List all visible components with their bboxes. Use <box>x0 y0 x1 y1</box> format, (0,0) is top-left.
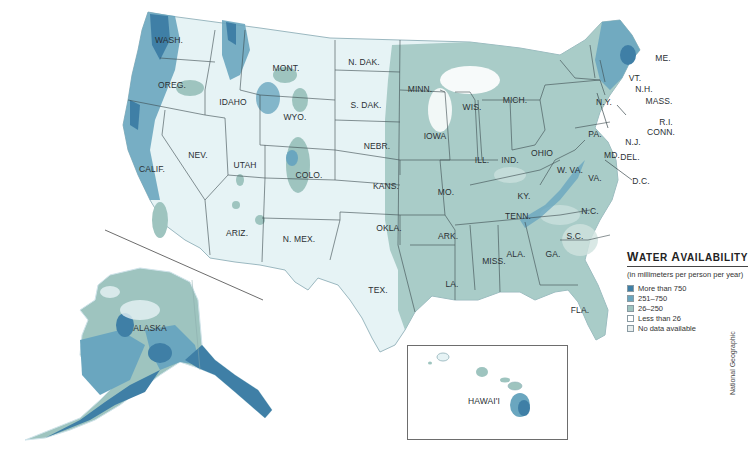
legend: WATER AVAILABILITY (in millimeters per p… <box>627 247 749 334</box>
label-south-carolina: S.C. <box>567 232 584 241</box>
label-alabama: ALA. <box>507 250 526 259</box>
label-michigan: MICH. <box>503 96 528 105</box>
legend-item-label: More than 750 <box>638 284 686 293</box>
label-montana: MONT. <box>273 64 300 73</box>
legend-item-more-than-750: More than 750 <box>627 284 749 294</box>
water-availability-map: WASH. OREG. CALIF. NEV. IDAHO MONT. WYO.… <box>0 0 751 460</box>
legend-item-251-750: 251–750 <box>627 294 749 304</box>
label-pennsylvania: PA. <box>588 130 601 139</box>
label-new-jersey: N.J. <box>625 138 641 147</box>
hawaii-inset-frame <box>407 345 568 440</box>
label-west-virginia: W. VA. <box>557 166 583 175</box>
legend-item-label: Less than 26 <box>638 314 681 323</box>
swatch-less-than-26 <box>627 315 634 322</box>
alaska-shape <box>25 268 272 440</box>
label-washington: WASH. <box>155 36 183 45</box>
label-indiana: IND. <box>501 156 518 165</box>
label-mississippi: MISS. <box>482 257 506 266</box>
label-arkansas: ARK. <box>438 232 458 241</box>
label-new-york: N.Y. <box>596 98 612 107</box>
legend-items: More than 750 251–750 26–250 Less than 2… <box>627 284 749 334</box>
legend-title: WATER AVAILABILITY <box>627 250 748 267</box>
label-virginia: VA. <box>588 174 601 183</box>
swatch-26-250 <box>627 305 634 312</box>
label-illinois: ILL. <box>475 156 490 165</box>
label-florida: FLA. <box>571 306 589 315</box>
label-north-carolina: N.C. <box>581 207 598 216</box>
label-north-dakota: N. DAK. <box>348 58 379 67</box>
legend-subtitle: (in millimeters per person per year) <box>627 271 749 280</box>
label-new-mexico: N. MEX. <box>283 235 315 244</box>
label-dc: D.C. <box>632 177 649 186</box>
label-utah: UTAH <box>234 161 257 170</box>
label-wyoming: WYO. <box>283 113 306 122</box>
label-oklahoma: OKLA. <box>376 224 402 233</box>
label-vermont: VT. <box>629 74 642 83</box>
label-kansas: KANS. <box>373 182 399 191</box>
label-missouri: MO. <box>438 188 454 197</box>
credit-national-geographic: National Geographic <box>729 331 736 395</box>
label-arizona: ARIZ. <box>226 229 248 238</box>
label-rhode-island: R.I. <box>659 118 673 127</box>
label-texas: TEX. <box>368 286 387 295</box>
label-alaska: ALASKA <box>133 324 167 333</box>
label-georgia: GA. <box>546 250 561 259</box>
label-kentucky: KY. <box>518 192 531 201</box>
label-idaho: IDAHO <box>219 98 246 107</box>
label-maine: ME. <box>655 54 670 63</box>
label-south-dakota: S. DAK. <box>351 101 382 110</box>
label-louisiana: LA. <box>445 280 458 289</box>
legend-item-label: No data available <box>638 324 696 333</box>
legend-item-less-than-26: Less than 26 <box>627 314 749 324</box>
label-minnesota: MINN. <box>408 85 433 94</box>
label-wisconsin: WIS. <box>463 103 482 112</box>
label-ohio: OHIO <box>531 149 553 158</box>
label-maryland: MD. <box>604 151 620 160</box>
label-tennessee: TENN. <box>505 212 531 221</box>
label-nebraska: NEBR. <box>364 142 390 151</box>
legend-item-label: 251–750 <box>638 294 667 303</box>
label-nevada: NEV. <box>188 151 207 160</box>
label-new-hampshire: N.H. <box>635 85 652 94</box>
legend-item-26-250: 26–250 <box>627 304 749 314</box>
label-iowa: IOWA <box>424 132 447 141</box>
legend-item-label: 26–250 <box>638 304 663 313</box>
label-massachusetts: MASS. <box>646 97 673 106</box>
swatch-more-than-750 <box>627 285 634 292</box>
label-connecticut: CONN. <box>647 128 675 137</box>
label-oregon: OREG. <box>158 81 186 90</box>
label-colorado: COLO. <box>296 171 323 180</box>
label-delaware: DEL. <box>620 153 639 162</box>
label-california: CALIF. <box>139 165 165 174</box>
swatch-251-750 <box>627 295 634 302</box>
swatch-no-data <box>627 325 634 332</box>
